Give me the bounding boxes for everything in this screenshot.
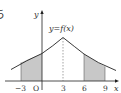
tick-label-9: 9	[103, 84, 108, 93]
shaded-region-right	[84, 54, 105, 81]
function-label: y=f(x)	[48, 24, 74, 33]
tick-label-neg3: −3	[15, 84, 26, 93]
x-axis-arrow-icon	[115, 79, 119, 82]
origin-label: O	[33, 84, 39, 93]
function-graph: ち y y=f(x) x −3 O 3 6 9	[0, 0, 121, 93]
shaded-region-left	[21, 54, 42, 82]
tick-label-3: 3	[61, 84, 66, 93]
y-axis-label: y	[33, 10, 39, 19]
y-axis-arrow-icon	[40, 10, 43, 14]
margin-character: ち	[0, 8, 5, 21]
tick-label-6: 6	[82, 84, 87, 93]
x-axis-label: x	[114, 84, 119, 93]
